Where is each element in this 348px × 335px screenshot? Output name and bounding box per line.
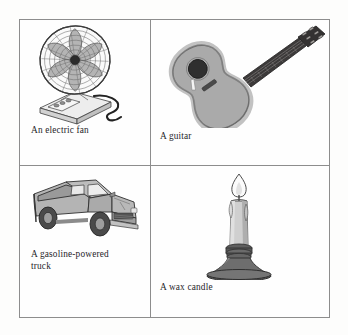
caption-wax-candle: A wax candle: [160, 281, 213, 293]
truck-headlight: [131, 208, 137, 213]
acoustic-guitar-illustration: [157, 22, 329, 128]
lit-wax-candle-illustration: [191, 168, 287, 280]
figure-page: An electric fan: [0, 0, 348, 335]
guitar-neck: [243, 38, 306, 87]
cell-gasoline-truck: A gasoline-powered truck: [20, 166, 151, 317]
fan-base: [40, 92, 111, 124]
pickup-truck-illustration: [26, 168, 146, 248]
candle-flame: [232, 174, 246, 197]
candle-body: [229, 200, 248, 249]
fan-head: [36, 22, 115, 99]
caption-electric-fan: An electric fan: [31, 124, 89, 136]
cell-guitar: A guitar: [151, 20, 329, 166]
caption-gasoline-truck: A gasoline-powered truck: [31, 248, 109, 273]
illustration-grid: An electric fan: [19, 19, 330, 318]
cell-wax-candle: A wax candle: [151, 166, 329, 317]
cell-electric-fan: An electric fan: [20, 20, 151, 166]
truck-rear-window: [71, 185, 84, 195]
electric-fan-illustration: [28, 22, 142, 126]
candle-holder-base: [207, 258, 271, 280]
caption-guitar: A guitar: [160, 130, 192, 142]
